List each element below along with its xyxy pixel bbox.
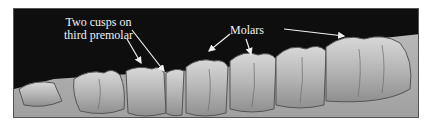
photo-frame: Two cusps on third premolar Molars xyxy=(13,8,419,118)
annotation-cusps-label: Two cusps on third premolar xyxy=(64,16,133,42)
annotation-molars-label: Molars xyxy=(230,24,264,37)
annotation-cusps-line-2: third premolar xyxy=(64,29,133,42)
